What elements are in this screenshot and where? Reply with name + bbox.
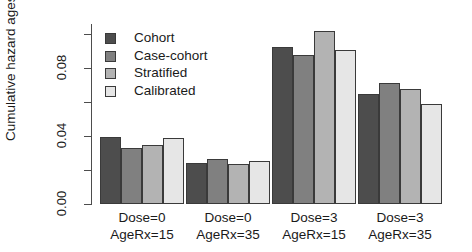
group-label-line1: Dose=0 (183, 209, 273, 226)
y-axis-tick-label: 0.00 (54, 181, 69, 227)
y-axis-tick (84, 34, 91, 35)
bar (421, 104, 442, 204)
bar (358, 94, 379, 204)
group-label-line1: Dose=3 (355, 209, 445, 226)
group-label-line1: Dose=3 (269, 209, 359, 226)
bar (314, 31, 335, 204)
x-axis-group-label: Dose=0AgeRx=35 (183, 209, 273, 243)
y-axis-tick (84, 102, 91, 103)
bar (272, 47, 293, 204)
group-label-line2: AgeRx=15 (269, 226, 359, 243)
bar (207, 159, 228, 204)
y-axis-tick (84, 136, 91, 137)
bar (163, 138, 184, 204)
bar-chart-figure: Cumulative hazard ages 40-60 yrs 0.000.0… (0, 0, 472, 252)
bar (186, 163, 207, 204)
bar (121, 148, 142, 204)
legend-label: Case-cohort (134, 48, 208, 63)
y-axis-title: Cumulative hazard ages 40-60 yrs (3, 0, 25, 141)
bar (335, 50, 356, 204)
x-axis-group-label: Dose=0AgeRx=15 (97, 209, 187, 243)
bar (293, 55, 314, 204)
group-label-line2: AgeRx=35 (355, 226, 445, 243)
bar (249, 161, 270, 204)
legend-swatch-stratified (105, 68, 116, 79)
x-axis-group-label: Dose=3AgeRx=35 (355, 209, 445, 243)
bar (400, 89, 421, 204)
legend-swatch-case-cohort (105, 51, 116, 62)
bar (142, 145, 163, 204)
y-axis-line (91, 24, 92, 205)
legend-swatch-cohort (105, 33, 116, 44)
bar (379, 83, 400, 204)
y-axis-tick-label: 0.08 (54, 45, 69, 91)
y-axis-tick (84, 68, 91, 69)
x-axis-group-label: Dose=3AgeRx=15 (269, 209, 359, 243)
bar (228, 164, 249, 204)
group-label-line2: AgeRx=35 (183, 226, 273, 243)
y-axis-tick-label: 0.04 (54, 113, 69, 159)
group-label-line1: Dose=0 (97, 209, 187, 226)
legend-label: Calibrated (134, 83, 196, 98)
y-axis-tick (84, 170, 91, 171)
group-label-line2: AgeRx=15 (97, 226, 187, 243)
legend-label: Cohort (134, 30, 175, 45)
bar (100, 137, 121, 204)
y-axis-tick (84, 204, 91, 205)
legend-swatch-calibrated (105, 86, 116, 97)
legend-label: Stratified (134, 65, 187, 80)
